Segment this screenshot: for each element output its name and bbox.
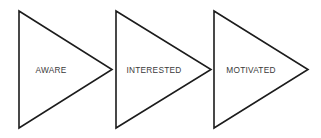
stage-label-interested: INTERESTED: [126, 66, 181, 74]
stage-label-motivated: MOTIVATED: [226, 66, 275, 74]
stage-label-aware: AWARE: [35, 66, 66, 74]
chevron-progression-diagram: AWARE INTERESTED MOTIVATED: [0, 0, 321, 138]
